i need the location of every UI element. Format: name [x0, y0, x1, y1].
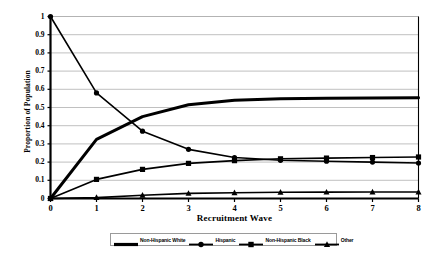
- legend-item-3: Other: [314, 235, 354, 244]
- legend-item-0: Non-Hispanic White: [113, 235, 185, 244]
- legend-swatch-icon: [314, 235, 340, 244]
- data-point: [94, 90, 99, 95]
- series-line-1: [51, 17, 419, 164]
- legend-swatch-icon: [113, 235, 139, 244]
- data-point: [186, 147, 191, 152]
- data-point: [140, 167, 145, 172]
- data-point: [370, 155, 375, 160]
- legend-swatch-icon: [238, 235, 264, 244]
- data-point: [232, 158, 237, 163]
- data-point: [324, 155, 329, 160]
- data-point: [278, 156, 283, 161]
- data-point: [370, 160, 375, 165]
- series-line-0: [51, 98, 419, 199]
- legend-label: Other: [341, 237, 354, 243]
- chart-legend: Non-Hispanic WhiteHispanicNon-Hispanic B…: [110, 233, 337, 246]
- plot-area: [0, 0, 443, 265]
- data-point: [416, 160, 421, 165]
- legend-label: Non-Hispanic Black: [265, 237, 310, 243]
- legend-swatch-icon: [188, 235, 214, 244]
- legend-item-1: Hispanic: [188, 235, 235, 244]
- data-point: [48, 14, 53, 19]
- legend-label: Hispanic: [215, 237, 235, 243]
- data-point: [140, 129, 145, 134]
- data-point: [416, 154, 421, 159]
- data-point: [94, 177, 99, 182]
- chart-figure: Proportion of Population Recruitment Wav…: [0, 0, 443, 265]
- data-point: [186, 161, 191, 166]
- legend-item-2: Non-Hispanic Black: [238, 235, 310, 244]
- legend-label: Non-Hispanic White: [140, 237, 185, 243]
